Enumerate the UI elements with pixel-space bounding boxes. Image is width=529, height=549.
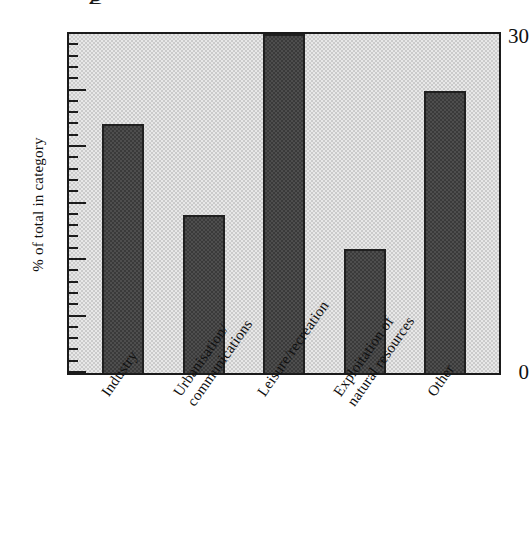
y-tick-minor bbox=[69, 360, 78, 362]
y-tick-minor bbox=[69, 55, 78, 57]
y-tick-minor bbox=[69, 326, 78, 328]
y-axis-label: % of total in category bbox=[30, 105, 47, 305]
y-tick-minor bbox=[69, 269, 78, 271]
y-tick-minor bbox=[69, 77, 78, 79]
y-tick-major bbox=[69, 202, 86, 204]
y-tick-minor bbox=[69, 235, 78, 237]
y-tick-minor bbox=[69, 281, 78, 283]
y-tick-major bbox=[69, 371, 86, 373]
y-tick-minor bbox=[69, 292, 78, 294]
plot-area bbox=[67, 32, 501, 375]
y-tick-minor bbox=[69, 43, 78, 45]
y-tick-major bbox=[69, 145, 86, 147]
y-tick-minor bbox=[69, 100, 78, 102]
bar-0 bbox=[102, 124, 144, 373]
y-tick-minor bbox=[69, 134, 78, 136]
y-tick-major bbox=[69, 89, 86, 91]
y-tick-major bbox=[69, 315, 86, 317]
y-tick-minor bbox=[69, 122, 78, 124]
y-tick-minor bbox=[69, 111, 78, 113]
y-tick-minor bbox=[69, 337, 78, 339]
bar-2 bbox=[263, 34, 305, 373]
y-tick-major bbox=[69, 258, 86, 260]
y-tick-major bbox=[69, 32, 86, 34]
y-tick-minor bbox=[69, 66, 78, 68]
y-tick-minor bbox=[69, 179, 78, 181]
y-tick-minor bbox=[69, 348, 78, 350]
y-tick-minor bbox=[69, 213, 78, 215]
y-tick-minor bbox=[69, 247, 78, 249]
y-tick-minor bbox=[69, 224, 78, 226]
y-tick-minor bbox=[69, 303, 78, 305]
bar-4 bbox=[424, 91, 466, 374]
y-tick-minor bbox=[69, 156, 78, 158]
page-scan-artifact: g bbox=[88, 0, 110, 4]
y-tick-minor bbox=[69, 190, 78, 192]
y-tick-minor bbox=[69, 168, 78, 170]
bar-chart-figure: g % of total in category 30 0 IndustryUr… bbox=[0, 0, 529, 549]
